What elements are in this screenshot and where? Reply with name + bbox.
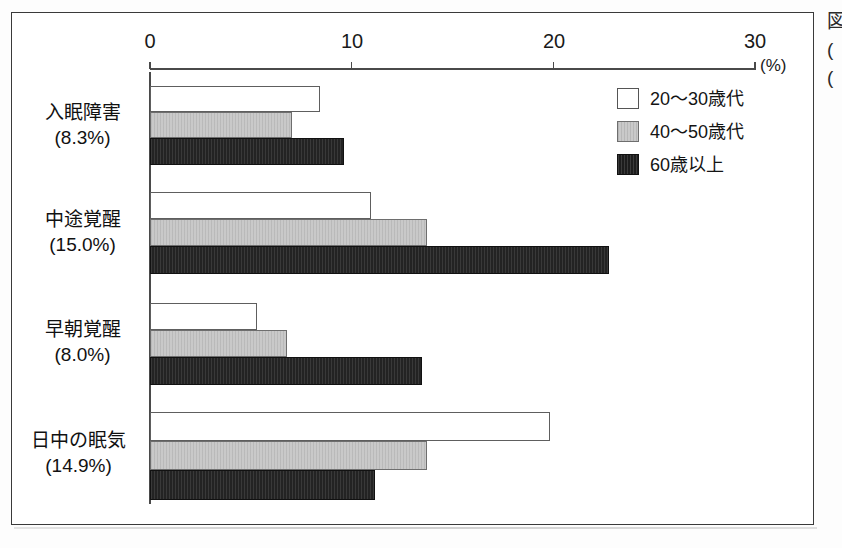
category-label-4: 日中の眠気 (14.9%): [12, 428, 145, 479]
margin-caption-line-1: 図: [827, 8, 842, 36]
legend-label-20-30: 20〜30歳代: [650, 90, 744, 108]
bar-3-40-50: [150, 330, 287, 357]
x-tick-20: [553, 62, 554, 69]
x-axis-unit-label: (%): [760, 57, 786, 74]
category-total-3: (8.0%): [20, 342, 145, 368]
x-axis-line: [150, 68, 756, 70]
bar-3-60-plus: [150, 357, 422, 385]
legend-swatch-white-icon: [617, 88, 639, 109]
legend-label-40-50: 40〜50歳代: [650, 123, 744, 141]
x-tick-10: [351, 62, 352, 69]
bar-4-20-30: [150, 412, 550, 441]
bar-1-20-30: [150, 86, 320, 112]
legend-swatch-gray-icon: [617, 121, 639, 142]
category-name-3: 早朝覚醒: [45, 319, 121, 340]
bar-chart: 0 10 20 30 (%) 入眠障害 (8.3%) 中途覚醒 (15.0%) …: [0, 0, 842, 548]
legend-item-20-30: 20〜30歳代: [617, 85, 744, 112]
category-total-4: (14.9%): [12, 453, 145, 479]
category-label-3: 早朝覚醒 (8.0%): [20, 317, 145, 368]
x-tick-label-10: 10: [341, 31, 363, 51]
legend-label-60-plus: 60歳以上: [650, 156, 724, 174]
x-tick-0: [149, 62, 150, 69]
category-label-1: 入眠障害 (8.3%): [20, 100, 145, 151]
bar-4-40-50: [150, 441, 427, 470]
x-tick-label-20: 20: [543, 31, 565, 51]
legend-swatch-black-icon: [617, 154, 639, 175]
x-tick-30: [754, 62, 755, 69]
category-label-2: 中途覚醒 (15.0%): [20, 207, 145, 258]
x-tick-label-0: 0: [144, 31, 155, 51]
bar-2-60-plus: [150, 246, 609, 274]
legend: 20〜30歳代 40〜50歳代 60歳以上: [617, 85, 744, 184]
margin-caption-line-3: (: [827, 64, 842, 92]
bar-1-40-50: [150, 112, 292, 138]
category-name-2: 中途覚醒: [45, 209, 121, 230]
margin-caption-line-2: (: [827, 36, 842, 64]
category-total-2: (15.0%): [20, 232, 145, 258]
margin-caption-cutoff: 図 ( (: [827, 8, 842, 92]
category-total-1: (8.3%): [20, 125, 145, 151]
bar-2-40-50: [150, 219, 427, 246]
bar-1-60-plus: [150, 138, 344, 165]
legend-item-60-plus: 60歳以上: [617, 151, 744, 178]
legend-item-40-50: 40〜50歳代: [617, 118, 744, 145]
bar-3-20-30: [150, 303, 257, 330]
category-name-4: 日中の眠気: [31, 430, 126, 451]
bar-2-20-30: [150, 192, 371, 219]
category-name-1: 入眠障害: [45, 102, 121, 123]
bar-4-60-plus: [150, 470, 375, 500]
x-tick-label-30: 30: [744, 31, 766, 51]
